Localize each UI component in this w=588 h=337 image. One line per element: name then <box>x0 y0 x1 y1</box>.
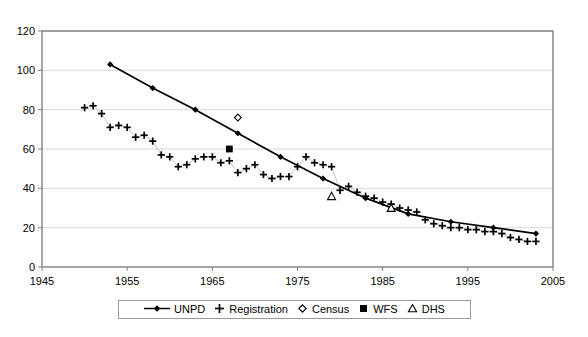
chart-legend: UNPDRegistrationCensusWFSDHS <box>118 300 471 319</box>
legend-item-label: Registration <box>229 304 288 315</box>
line-diamond-icon <box>144 303 170 316</box>
x-tick-label: 1975 <box>285 275 309 287</box>
marker-open-triangle <box>328 192 336 199</box>
marker-filled-square <box>226 146 233 153</box>
y-tick-label: 40 <box>23 182 35 194</box>
x-tick-label: 1955 <box>115 275 139 287</box>
y-tick-label: 80 <box>23 104 35 116</box>
marker-filled-diamond <box>320 175 326 181</box>
legend-item-label: Census <box>312 304 349 315</box>
open-diamond-icon <box>297 303 308 316</box>
legend-item-label: WFS <box>373 304 397 315</box>
x-tick-label: 1985 <box>370 275 394 287</box>
x-tick-label: 1965 <box>200 275 224 287</box>
marker-open-diamond <box>234 114 241 121</box>
marker-filled-diamond <box>533 230 539 236</box>
y-tick-label: 20 <box>23 222 35 234</box>
legend-item-label: DHS <box>422 304 445 315</box>
marker-filled-diamond <box>405 211 411 217</box>
series-line-registration <box>85 106 536 242</box>
marker-filled-diamond <box>448 219 454 225</box>
x-tick-label: 1945 <box>30 275 54 287</box>
y-tick-label: 120 <box>17 25 35 37</box>
y-tick-label: 0 <box>29 261 35 273</box>
x-tick-label: 1995 <box>456 275 480 287</box>
legend-item-census[interactable]: Census <box>297 303 349 316</box>
filled-square-icon <box>358 303 369 316</box>
legend-item-wfs[interactable]: WFS <box>358 303 397 316</box>
x-tick-label: 2005 <box>541 275 565 287</box>
legend-item-unpd[interactable]: UNPD <box>144 303 205 316</box>
open-triangle-icon <box>407 303 418 316</box>
chart-figure: 0204060801001201945195519651975198519952… <box>0 0 588 337</box>
legend-item-registration[interactable]: Registration <box>214 303 288 316</box>
legend-item-dhs[interactable]: DHS <box>407 303 445 316</box>
chart-plot-area: 0204060801001201945195519651975198519952… <box>0 0 588 337</box>
legend-item-label: UNPD <box>174 304 205 315</box>
plus-icon <box>214 303 225 316</box>
marker-filled-diamond <box>490 225 496 231</box>
y-tick-label: 100 <box>17 64 35 76</box>
y-tick-label: 60 <box>23 143 35 155</box>
